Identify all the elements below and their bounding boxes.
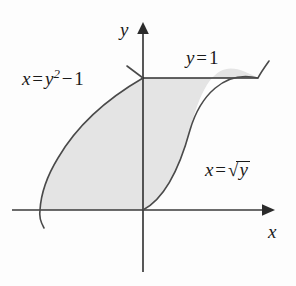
y-axis-arrowhead xyxy=(137,22,149,34)
label-left-curve: x=y2−1 xyxy=(22,68,84,88)
label-left-curve-exponent: 2 xyxy=(53,66,59,81)
label-right-curve: x=√y xyxy=(205,160,250,179)
label-top-line-value: 1 xyxy=(209,47,219,68)
label-left-curve-minus: − xyxy=(60,68,75,89)
label-right-curve-radicand: y xyxy=(238,159,249,180)
x-axis-label: x xyxy=(268,222,276,241)
label-right-curve-equals: = xyxy=(213,159,228,180)
label-top-line-equals: = xyxy=(194,47,209,68)
radical-overbar xyxy=(236,161,250,162)
radical-icon: √y xyxy=(228,160,250,179)
x-axis-arrowhead xyxy=(262,204,275,216)
radical-glyph: √ xyxy=(228,159,238,180)
math-figure: x=y2−1 y=1 x=√y y x xyxy=(0,0,296,286)
label-left-curve-equals: = xyxy=(30,68,45,89)
label-left-curve-constant: 1 xyxy=(74,68,84,89)
label-top-line: y=1 xyxy=(186,48,218,67)
region-plot xyxy=(0,0,296,286)
y-axis-label: y xyxy=(120,20,128,39)
shaded-region xyxy=(40,69,258,210)
